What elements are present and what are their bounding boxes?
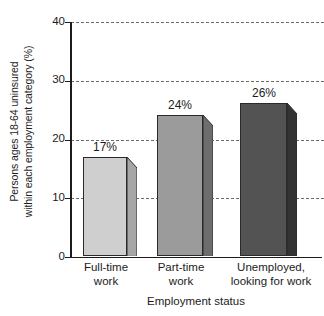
bar-front-face-part-time-work <box>157 115 203 256</box>
bar-unemployed-looking-for-work <box>240 103 287 256</box>
x-axis-title: Employment status <box>70 295 322 308</box>
y-tick-label-30: 30 <box>41 73 65 85</box>
y-axis-title-line-2: within each employment category (%) <box>22 45 36 217</box>
x-tick-label-part-time-work-line-2: work <box>142 275 220 289</box>
y-axis-title: Persons ages 18-64 uninsured within each… <box>0 0 44 262</box>
y-tick-label-20: 20 <box>41 132 65 144</box>
x-tick-label-part-time-work-line-1: Part-time <box>158 261 205 273</box>
x-tick-label-full-time-work-line-2: work <box>68 275 144 289</box>
x-tick-label-full-time-work: Full-time work <box>68 261 144 288</box>
bar-side-face-full-time-work <box>127 157 137 256</box>
bar-front-face-full-time-work <box>83 157 127 256</box>
bar-chart: Persons ages 18-64 uninsured within each… <box>0 0 324 316</box>
y-tick-label-0: 0 <box>41 250 65 262</box>
value-label-full-time-work: 17% <box>75 141 135 154</box>
y-axis-line <box>70 22 72 258</box>
y-tick-label-10: 10 <box>41 191 65 203</box>
bar-side-face-unemployed-looking-for-work <box>287 103 297 256</box>
bar-full-time-work <box>83 157 127 256</box>
y-axis-title-line-1: Persons ages 18-64 uninsured <box>9 45 23 217</box>
bar-part-time-work <box>157 115 203 256</box>
x-tick-label-unemployed-looking-for-work: Unemployed, looking for work <box>219 261 323 288</box>
x-tick-label-unemployed-line-1: Unemployed, <box>237 261 305 273</box>
value-label-part-time-work: 24% <box>150 99 210 112</box>
x-tick-label-full-time-work-line-1: Full-time <box>84 261 128 273</box>
gridline-40 <box>71 22 324 23</box>
y-tick-label-40: 40 <box>41 15 65 27</box>
x-tick-label-unemployed-line-2: looking for work <box>219 275 323 289</box>
bar-side-face-part-time-work <box>203 115 213 256</box>
bar-front-face-unemployed-looking-for-work <box>240 103 287 256</box>
value-label-unemployed-looking-for-work: 26% <box>234 87 294 100</box>
gridline-30 <box>71 81 324 82</box>
x-tick-label-part-time-work: Part-time work <box>142 261 220 288</box>
x-axis-line <box>70 257 322 259</box>
